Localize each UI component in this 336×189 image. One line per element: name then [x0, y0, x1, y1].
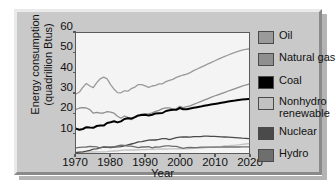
- y-tick-mark: [73, 133, 76, 134]
- legend-item[interactable]: Hydro: [258, 148, 308, 162]
- x-tick-mark: [249, 154, 250, 157]
- y-tick-mark: [73, 92, 76, 93]
- y-tick-mark: [73, 113, 76, 114]
- legend-item[interactable]: Oil: [258, 30, 292, 44]
- legend-label: Nuclear: [279, 126, 317, 138]
- y-axis-title-line1: Energy consumption: [29, 5, 42, 125]
- legend-swatch: [258, 149, 274, 162]
- y-tick-mark: [73, 52, 76, 53]
- y-tick-mark: [73, 31, 76, 32]
- series-line: [76, 49, 249, 94]
- y-tick-label: 10: [47, 123, 73, 133]
- legend-swatch: [258, 31, 274, 44]
- legend-swatch: [258, 127, 274, 140]
- legend-swatch: [258, 76, 274, 89]
- y-tick-label: 20: [47, 102, 73, 112]
- series-line: [76, 99, 249, 130]
- legend-item[interactable]: Nuclear: [258, 126, 317, 140]
- legend-label: Natural gas: [279, 52, 335, 64]
- legend-item[interactable]: Coal: [258, 75, 302, 89]
- y-tick-mark: [73, 72, 76, 73]
- x-tick-mark: [109, 154, 110, 157]
- plot-area: [75, 32, 250, 154]
- x-tick-mark: [179, 154, 180, 157]
- y-axis-ticks: 102030405060: [43, 26, 73, 160]
- legend-item[interactable]: Nonhydro renewable: [258, 96, 330, 119]
- series-lines: [76, 33, 249, 153]
- x-tick-mark: [214, 154, 215, 157]
- legend-item[interactable]: Natural gas: [258, 52, 335, 66]
- y-tick-label: 30: [47, 82, 73, 92]
- x-tick-mark: [144, 154, 145, 157]
- y-tick-label: 60: [47, 21, 73, 31]
- y-tick-label: 50: [47, 41, 73, 51]
- legend-swatch: [258, 53, 274, 66]
- legend-label: Oil: [279, 30, 292, 42]
- series-line: [76, 136, 249, 152]
- y-tick-label: 40: [47, 62, 73, 72]
- legend-label: Nonhydro renewable: [279, 96, 330, 119]
- x-axis-title: Year: [75, 167, 250, 179]
- figure-panel: Energy consumption (quadrillion Btus) 10…: [14, 9, 322, 175]
- x-tick-mark: [74, 154, 75, 157]
- legend-label: Hydro: [279, 148, 308, 160]
- legend-swatch: [258, 97, 274, 110]
- legend-label: Coal: [279, 75, 302, 87]
